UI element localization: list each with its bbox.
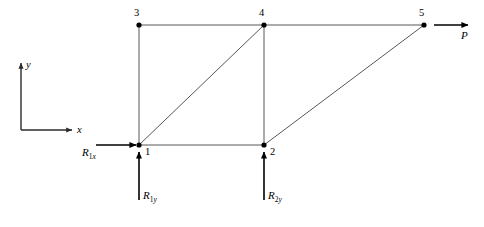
- truss-joint-2: [261, 142, 266, 147]
- truss-joint-1: [136, 142, 141, 147]
- truss-drawing-canvas: [0, 0, 484, 227]
- applied-load-p-label: P: [461, 30, 468, 41]
- y-axis-label: y: [26, 60, 31, 71]
- reaction-r1x-label: R1x: [82, 147, 96, 158]
- joint-label-4: 4: [259, 8, 264, 19]
- joint-label-5: 5: [419, 8, 424, 19]
- joint-label-1: 1: [145, 147, 150, 158]
- truss-joints: [136, 22, 426, 147]
- coordinate-axes: [21, 63, 72, 130]
- truss-joint-4: [261, 22, 266, 27]
- reaction-r1y-label: R1y: [143, 190, 157, 201]
- truss-joint-5: [421, 22, 426, 27]
- reaction-r2y-label: R2y: [268, 190, 282, 201]
- joint-label-3: 3: [134, 8, 139, 19]
- truss-members: [139, 25, 424, 145]
- truss-diagram: 12345PR1xR1yR2yxy: [0, 0, 484, 227]
- joint-label-2: 2: [270, 147, 275, 158]
- x-axis-label: x: [77, 125, 82, 136]
- truss-member-1-4: [139, 25, 264, 145]
- truss-joint-3: [136, 22, 141, 27]
- force-arrows: [96, 25, 468, 200]
- truss-member-2-5: [264, 25, 424, 145]
